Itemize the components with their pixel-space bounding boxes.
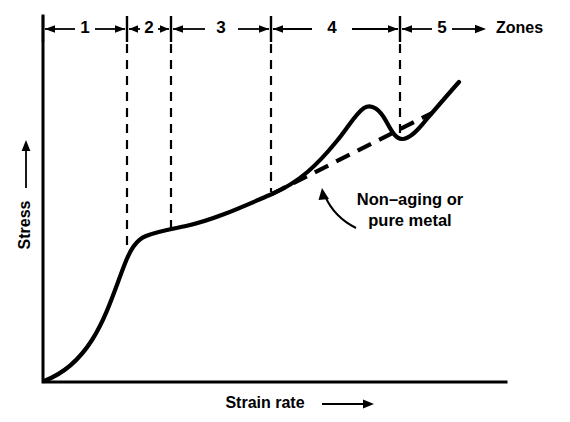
annotation-line-2: pure metal (368, 211, 451, 229)
zone-label-3: 3 (216, 18, 225, 37)
zone-label-2: 2 (144, 18, 153, 37)
x-axis-arrow (322, 399, 374, 408)
zones-measure-bar: 1 2 3 4 (43, 16, 543, 42)
zone-label-5: 5 (437, 18, 446, 37)
non-aging-annotation: Non–aging or pure metal (319, 188, 464, 229)
annotation-leader-line (325, 196, 356, 228)
zones-axis-label: Zones (496, 19, 543, 36)
y-axis-label-group: Stress (16, 140, 33, 249)
y-axis-label: Stress (16, 200, 33, 249)
stress-strain-rate-zone-chart: 1 2 3 4 (0, 0, 570, 422)
x-axis-label-group: Strain rate (225, 394, 374, 411)
annotation-arrowhead (319, 188, 330, 200)
y-axis-arrow (22, 140, 31, 188)
annotation-line-1: Non–aging or (357, 190, 464, 208)
x-axis-label: Strain rate (225, 394, 304, 411)
stress-strain-curve (44, 82, 459, 381)
chart-figure: 1 2 3 4 (0, 0, 570, 422)
zone-label-4: 4 (327, 18, 337, 37)
zone-label-1: 1 (80, 18, 89, 37)
